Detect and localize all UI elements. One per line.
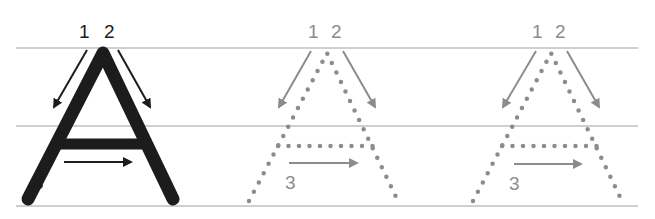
stroke-label-3: 3 bbox=[509, 174, 520, 193]
handwriting-worksheet: 1 2 3 1 2 3 1 2 3 bbox=[0, 0, 655, 219]
stroke-label-3: 3 bbox=[285, 173, 296, 192]
stroke-label-1: 1 bbox=[79, 22, 90, 41]
stroke-label-1: 1 bbox=[532, 22, 543, 41]
letter-a-dotted-1 bbox=[249, 51, 398, 201]
stroke-2-arrow-icon bbox=[343, 51, 375, 107]
stroke-label-3: 3 bbox=[33, 173, 44, 192]
stroke-label-1: 1 bbox=[308, 22, 319, 41]
stroke-label-2: 2 bbox=[104, 22, 115, 41]
letter-a-solid bbox=[28, 50, 173, 199]
stroke-label-2: 2 bbox=[555, 22, 566, 41]
stroke-1-arrow-icon bbox=[279, 51, 311, 107]
letter-a-dotted-2 bbox=[473, 51, 622, 201]
stroke-label-2: 2 bbox=[331, 22, 342, 41]
stroke-2-arrow-icon bbox=[567, 51, 599, 107]
stroke-1-arrow-icon bbox=[503, 51, 536, 107]
